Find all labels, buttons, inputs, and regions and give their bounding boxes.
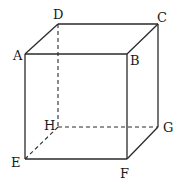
vertex-label-g: G [163, 120, 173, 135]
edge-da [25, 24, 58, 54]
vertex-label-e: E [11, 155, 21, 170]
vertex-label-a: A [12, 48, 23, 63]
edge-bc [127, 24, 158, 54]
vertex-label-c: C [157, 10, 167, 25]
edge-fg [127, 127, 158, 159]
vertex-label-b: B [130, 53, 140, 68]
vertex-label-f: F [120, 166, 129, 181]
vertex-label-h: H [44, 118, 55, 133]
cube-diagram: A B C D E F G H [0, 0, 184, 184]
vertex-label-d: D [53, 7, 63, 22]
